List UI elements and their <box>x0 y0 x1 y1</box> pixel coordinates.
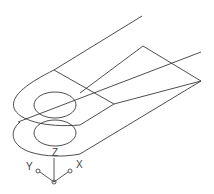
upper-hole <box>34 92 76 118</box>
upper-profile <box>13 16 201 126</box>
mid-edge <box>18 52 201 122</box>
z-axis-label: Z <box>52 147 58 158</box>
x-axis-label: X <box>76 159 83 170</box>
drawing-viewport[interactable]: Z Y X <box>0 0 214 194</box>
lower-profile <box>13 81 201 156</box>
ucs-icon: Z Y X <box>26 147 83 184</box>
y-axis-label: Y <box>26 161 33 172</box>
lower-hole <box>34 120 76 146</box>
